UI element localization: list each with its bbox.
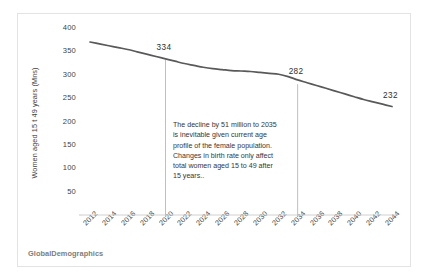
annotation-line-4: Changes in birth rate only affect [173,151,313,161]
annotation-line-2: is inevitable given current age [173,130,313,140]
footer-credit: GlobalDemographics [28,249,103,258]
annotation-textbox: The decline by 51 million to 2035 is ine… [173,120,313,182]
series-line-women-15-49 [90,42,392,107]
annotation-line-6: 15 years.. [173,171,313,181]
annotation-line-3: profile of the female population. [173,141,313,151]
annotation-line-1: The decline by 51 million to 2035 [173,120,313,130]
annotation-line-5: total women aged 15 to 49 after [173,161,313,171]
